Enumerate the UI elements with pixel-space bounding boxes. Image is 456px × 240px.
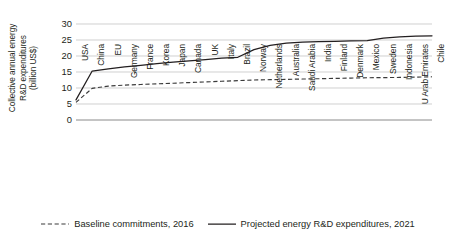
y-tick-15: 15 xyxy=(52,67,72,76)
y-tick-25: 25 xyxy=(52,35,72,44)
chart-legend: Baseline commitments, 2016Projected ener… xyxy=(0,214,456,234)
y-tick-20: 20 xyxy=(52,51,72,60)
x-tick-sweden: Sweden xyxy=(388,44,399,122)
y-tick-5: 5 xyxy=(52,99,72,108)
x-tick-india: India xyxy=(323,44,334,122)
x-tick-uk: UK xyxy=(210,44,221,122)
x-tick-eu: EU xyxy=(113,44,124,122)
x-tick-u-arab-emirates: U Arab Emirates xyxy=(420,44,431,122)
y-tick-30: 30 xyxy=(52,19,72,28)
x-tick-saudi-arabia: Saudi Arabia xyxy=(307,44,318,122)
x-tick-usa: USA xyxy=(80,44,91,122)
legend-item-1[interactable]: Projected energy R&D expenditures, 2021 xyxy=(208,219,415,229)
x-tick-australia: Australia xyxy=(291,44,302,122)
x-tick-korea: Korea xyxy=(161,44,172,122)
solid-line-icon xyxy=(208,220,236,228)
x-tick-germany: Germany xyxy=(129,44,140,122)
legend-item-0[interactable]: Baseline commitments, 2016 xyxy=(41,219,193,229)
x-tick-norway: Norway xyxy=(258,44,269,122)
legend-label: Baseline commitments, 2016 xyxy=(74,219,193,229)
x-tick-denmark: Denmark xyxy=(355,44,366,122)
x-tick-mexico: Mexico xyxy=(371,44,382,122)
dashed-line-icon xyxy=(41,220,69,228)
chart-figure: Collective annual energy R&D expenditure… xyxy=(0,0,456,240)
x-tick-chile: Chile xyxy=(436,44,447,122)
y-tick-0: 0 xyxy=(52,115,72,124)
x-tick-netherlands: Netherlands xyxy=(274,44,285,122)
x-tick-brazil: Brazil xyxy=(242,44,253,122)
x-tick-italy: Italy xyxy=(226,44,237,122)
x-tick-france: France xyxy=(145,44,156,122)
x-axis-tick-labels: USAChinaEUGermanyFranceKoreaJapanCanadaU… xyxy=(76,122,432,200)
x-tick-japan: Japan xyxy=(177,44,188,122)
legend-label: Projected energy R&D expenditures, 2021 xyxy=(241,219,415,229)
x-tick-finland: Finland xyxy=(339,44,350,122)
y-tick-10: 10 xyxy=(52,83,72,92)
x-tick-canada: Canada xyxy=(193,44,204,122)
x-tick-indonesia: Indonesia xyxy=(404,44,415,122)
x-tick-china: China xyxy=(96,44,107,122)
